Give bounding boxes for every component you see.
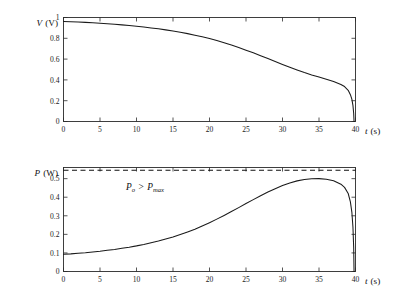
x-ticklabel: 20 <box>206 125 214 134</box>
y-axis-label: V(V) <box>37 18 58 28</box>
voltage-plot-svg: 051015202530354000.20.40.60.81 V(V) t(s) <box>0 0 402 150</box>
x-ticklabel: 10 <box>133 275 141 284</box>
plot-frame <box>64 18 356 122</box>
y-ticklabel: 0.8 <box>50 34 60 43</box>
y-axis-label: P(W) <box>34 168 58 178</box>
x-ticklabel: 40 <box>352 275 360 284</box>
inequality-annotation: Po>Pmax <box>125 182 164 193</box>
x-ticklabel: 35 <box>315 125 323 134</box>
data-curve-voltage <box>64 21 355 121</box>
y-ticklabel: 0.1 <box>50 249 60 258</box>
x-ticklabel: 30 <box>279 125 287 134</box>
x-ticklabel: 25 <box>242 125 250 134</box>
plot-frame <box>64 168 356 272</box>
x-ticklabel: 15 <box>169 125 177 134</box>
y-ticklabel: 0.4 <box>50 76 60 85</box>
x-ticklabel: 35 <box>315 275 323 284</box>
axis-ticks <box>64 168 356 272</box>
y-ticklabel: 0.3 <box>50 212 60 221</box>
data-curve-power <box>64 179 355 272</box>
x-axis-label: t(s) <box>365 276 380 286</box>
y-ticklabel: 0.6 <box>50 55 60 64</box>
axis-ticks <box>64 18 356 122</box>
power-panel: 051015202530354000.10.20.30.40.5 Po>Pmax… <box>0 150 402 300</box>
y-ticklabel: 0.4 <box>50 193 60 202</box>
x-axis-label: t(s) <box>365 126 380 136</box>
power-plot-svg: 051015202530354000.10.20.30.40.5 Po>Pmax… <box>0 150 402 300</box>
x-ticklabel: 10 <box>133 125 141 134</box>
x-ticklabel: 15 <box>169 275 177 284</box>
axis-ticklabels: 051015202530354000.20.40.60.81 <box>50 13 360 134</box>
x-ticklabel: 25 <box>242 275 250 284</box>
x-ticklabel: 20 <box>206 275 214 284</box>
voltage-panel: 051015202530354000.20.40.60.81 V(V) t(s) <box>0 0 402 150</box>
axis-ticklabels: 051015202530354000.10.20.30.40.5 <box>50 174 360 284</box>
y-ticklabel: 0 <box>56 267 60 276</box>
y-ticklabel: 0 <box>56 117 60 126</box>
x-ticklabel: 5 <box>98 275 102 284</box>
x-ticklabel: 0 <box>62 125 66 134</box>
x-ticklabel: 5 <box>98 125 102 134</box>
y-ticklabel: 0.2 <box>50 230 60 239</box>
figure-container: 051015202530354000.20.40.60.81 V(V) t(s)… <box>0 0 402 300</box>
x-ticklabel: 40 <box>352 125 360 134</box>
x-ticklabel: 30 <box>279 275 287 284</box>
y-ticklabel: 0.2 <box>50 97 60 106</box>
x-ticklabel: 0 <box>62 275 66 284</box>
